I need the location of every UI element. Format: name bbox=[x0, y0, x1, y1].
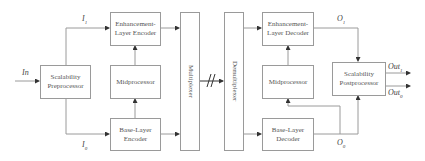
demultiplexer-block: Demultiplexer bbox=[224, 12, 244, 151]
multiplexer-block: Multiplexer bbox=[180, 12, 200, 151]
enhancement-layer-encoder-block: Enhancement-Layer Encoder bbox=[110, 12, 161, 46]
signal-i0-label: I0 bbox=[82, 140, 87, 151]
signal-o0-label: O0 bbox=[337, 138, 345, 149]
output-1-label: Out1 bbox=[388, 62, 403, 73]
scalability-preprocessor-block: Scalability Preprocessor bbox=[40, 65, 91, 99]
midprocessor-encoder-block: Midprocessor bbox=[110, 65, 161, 99]
enhancement-layer-decoder-block: Enhancement-Layer Decoder bbox=[262, 12, 314, 46]
base-layer-encoder-block: Base-Layer Encoder bbox=[110, 118, 161, 151]
input-label: In bbox=[22, 68, 29, 77]
base-layer-decoder-block: Base-Layer Decoder bbox=[262, 118, 314, 151]
output-0-label: Out0 bbox=[388, 88, 403, 99]
scalability-postprocessor-block: Scalability Postprocessor bbox=[332, 62, 386, 96]
signal-i1-label: I1 bbox=[82, 14, 87, 25]
midprocessor-decoder-block: Midprocessor bbox=[262, 65, 314, 99]
signal-o1-label: O1 bbox=[337, 14, 345, 25]
